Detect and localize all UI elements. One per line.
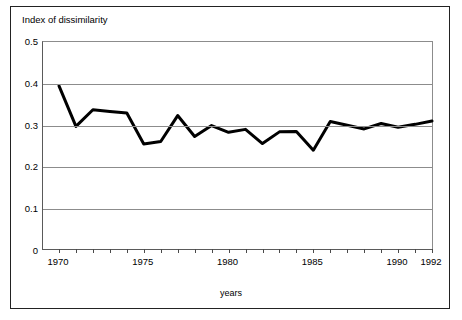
x-tick-mark [330, 249, 331, 253]
x-tick-mark [364, 249, 365, 253]
x-tick-mark [398, 249, 399, 253]
x-tick-mark [144, 249, 145, 253]
x-tick-label: 1975 [132, 256, 153, 267]
series-line-index-of-dissimilarity [59, 86, 432, 150]
x-tick-mark [229, 249, 230, 253]
chart-figure: Index of dissimilarity 0.50.40.30.20.10 … [0, 0, 462, 320]
x-tick-mark [432, 249, 433, 253]
x-tick-label: 1985 [302, 256, 323, 267]
y-axis-title: Index of dissimilarity [22, 14, 108, 25]
plot-area [42, 41, 433, 250]
y-tick-label: 0.3 [4, 119, 38, 130]
x-tick-mark [212, 249, 213, 253]
gridline-y [43, 209, 432, 210]
y-tick-label: 0.5 [4, 36, 38, 47]
x-tick-mark [127, 249, 128, 253]
x-tick-mark [76, 249, 77, 253]
y-tick-label: 0.4 [4, 77, 38, 88]
x-tick-mark [161, 249, 162, 253]
y-axis-tick-labels: 0.50.40.30.20.10 [0, 41, 38, 250]
series-line-svg [43, 42, 434, 251]
x-tick-mark [59, 249, 60, 253]
x-tick-mark [313, 249, 314, 253]
x-tick-mark [415, 249, 416, 253]
x-tick-label: 1992 [420, 256, 441, 267]
y-tick-label: 0.2 [4, 161, 38, 172]
x-tick-mark [93, 249, 94, 253]
x-axis-title: years [0, 288, 462, 298]
y-tick-label: 0.1 [4, 203, 38, 214]
x-tick-label: 1980 [217, 256, 238, 267]
gridline-y [43, 84, 432, 85]
x-tick-mark [246, 249, 247, 253]
gridline-y [43, 167, 432, 168]
x-tick-mark [296, 249, 297, 253]
x-tick-label: 1970 [47, 256, 68, 267]
gridline-y [43, 126, 432, 127]
x-tick-mark [195, 249, 196, 253]
x-tick-mark [263, 249, 264, 253]
x-tick-label: 1990 [387, 256, 408, 267]
x-tick-mark [381, 249, 382, 253]
x-tick-mark [347, 249, 348, 253]
x-tick-mark [110, 249, 111, 253]
x-tick-mark [178, 249, 179, 253]
x-tick-mark [279, 249, 280, 253]
y-tick-label: 0 [4, 245, 38, 256]
